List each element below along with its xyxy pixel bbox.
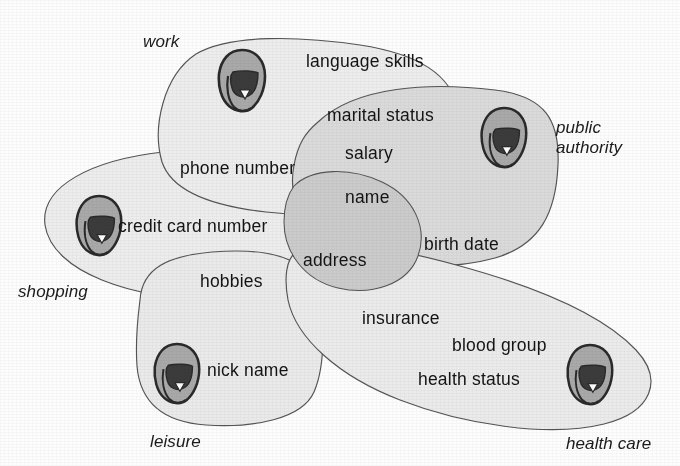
- attribute-insurance: insurance: [362, 308, 440, 329]
- region-label-work: work: [143, 32, 179, 52]
- diagram-canvas: work public authority shopping leisure h…: [0, 0, 680, 466]
- region-label-public-authority: public authority: [556, 118, 622, 157]
- attribute-address: address: [303, 250, 367, 271]
- region-label-shopping: shopping: [18, 282, 88, 302]
- person-icon: [148, 340, 206, 410]
- attribute-birth-date: birth date: [424, 234, 499, 255]
- person-icon: [561, 341, 619, 411]
- attribute-name: name: [345, 187, 390, 208]
- attribute-blood-group: blood group: [452, 335, 547, 356]
- attribute-hobbies: hobbies: [200, 271, 263, 292]
- attribute-language-skills: language skills: [306, 51, 424, 72]
- region-label-leisure: leisure: [150, 432, 201, 452]
- person-icon: [475, 104, 533, 174]
- person-icon: [212, 46, 272, 118]
- attribute-credit-card-number: credit card number: [118, 216, 268, 237]
- region-label-health-care: health care: [566, 434, 651, 454]
- attribute-salary: salary: [345, 143, 393, 164]
- attribute-marital-status: marital status: [327, 105, 434, 126]
- attribute-phone-number: phone number: [180, 158, 295, 179]
- attribute-health-status: health status: [418, 369, 520, 390]
- attribute-nick-name: nick name: [207, 360, 289, 381]
